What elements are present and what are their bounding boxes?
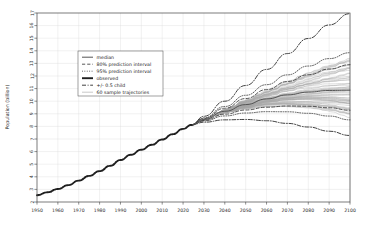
y-tick-label: 11 [30, 86, 35, 92]
y-tick-label: 16 [30, 23, 35, 29]
y-tick-label: 8 [30, 125, 35, 128]
x-tick-label: 1980 [94, 208, 106, 213]
x-tick-label: 2030 [198, 208, 210, 213]
y-tick-label: 2 [30, 200, 35, 203]
x-tick-label: 2070 [282, 208, 294, 213]
legend-label: 60 sample trajectories [97, 90, 150, 95]
y-axis-title-text: Population (billion) [5, 84, 10, 129]
x-tick-label: 2040 [219, 208, 231, 213]
x-tick-label: 2060 [261, 208, 273, 213]
legend-label: observed [97, 76, 119, 81]
y-tick-label: 17 [30, 10, 35, 16]
y-tick-label: 6 [30, 150, 35, 153]
y-tick-label: 12 [30, 73, 35, 79]
x-tick-label: 2020 [177, 208, 189, 213]
y-tick-label: 4 [30, 175, 35, 178]
y-tick-label: 13 [30, 60, 35, 66]
x-tick-label: 1970 [73, 208, 85, 213]
legend-label: median [97, 55, 115, 60]
y-tick-label: 15 [30, 35, 35, 41]
y-tick-label: 9 [30, 112, 35, 115]
legend-label: +/- 0.5 child [97, 83, 126, 88]
chart-root: 1950196019701980199020002010202020302040… [0, 0, 370, 238]
x-tick-label: 2090 [323, 208, 335, 213]
y-axis-title: Population (billion) [5, 84, 10, 129]
y-tick-label: 7 [30, 137, 35, 140]
x-tick-label: 2050 [240, 208, 252, 213]
y-tick-label: 10 [30, 98, 35, 104]
x-tick-label: 2010 [156, 208, 168, 213]
legend-label: 95% prediction interval [97, 69, 152, 74]
x-tick-label: 2000 [135, 208, 147, 213]
chart-legend: median80% prediction interval95% predict… [78, 51, 163, 96]
x-tick-label: 1990 [115, 208, 127, 213]
x-tick-label: 1960 [52, 208, 64, 213]
population-projection-chart: 1950196019701980199020002010202020302040… [0, 0, 370, 238]
x-tick-label: 1950 [31, 208, 43, 213]
y-tick-label: 3 [30, 188, 35, 191]
y-tick-label: 5 [30, 163, 35, 166]
legend-label: 80% prediction interval [97, 62, 152, 67]
x-tick-label: 2100 [344, 208, 356, 213]
x-tick-label: 2080 [302, 208, 314, 213]
y-tick-label: 14 [30, 48, 35, 54]
